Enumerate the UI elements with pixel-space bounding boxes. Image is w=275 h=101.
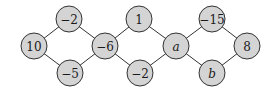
node-na: a: [163, 33, 189, 59]
node-nm2b: −2: [127, 60, 153, 86]
node-nm6: −6: [92, 33, 118, 59]
node-label: b: [208, 67, 216, 81]
node-nm5: −5: [57, 60, 83, 86]
node-n10: 10: [21, 33, 47, 59]
node-nb: b: [199, 60, 225, 86]
number-lattice-diagram: 10−2−5−61−2a−15b8: [0, 0, 275, 101]
node-label: −2: [60, 13, 78, 27]
node-label: 8: [243, 40, 251, 54]
node-n8: 8: [234, 33, 260, 59]
node-label: −5: [61, 67, 79, 81]
node-nm15: −15: [199, 6, 225, 32]
node-label: −6: [96, 40, 114, 54]
node-nm2a: −2: [56, 6, 82, 32]
node-label: −15: [199, 13, 224, 27]
node-label: −2: [131, 67, 149, 81]
node-label: 1: [135, 13, 143, 27]
nodes: 10−2−5−61−2a−15b8: [21, 6, 260, 86]
node-label: 10: [26, 40, 41, 54]
node-label: a: [172, 40, 179, 54]
node-n1: 1: [126, 6, 152, 32]
